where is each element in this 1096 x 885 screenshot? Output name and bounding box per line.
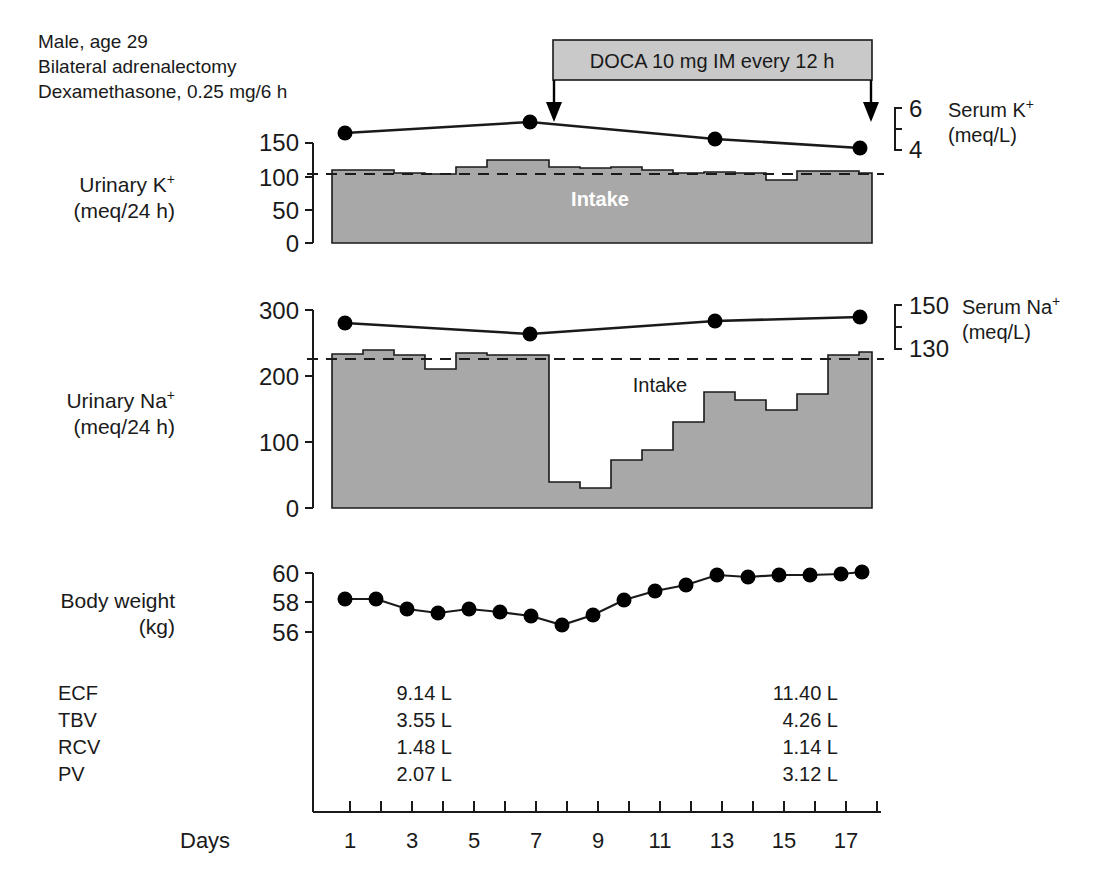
table-value-after: 1.14 L: [782, 736, 838, 758]
day-tick-9: 9: [592, 828, 604, 853]
volume-measurements-table: ECF TBV RCV PV 9.14 L 3.55 L 1.48 L 2.07…: [58, 682, 838, 785]
day-tick-1: 1: [344, 828, 356, 853]
table-value-after: 4.26 L: [782, 709, 838, 731]
serum-na-line: [345, 317, 860, 334]
serum-na-series: [338, 310, 868, 342]
days-axis: Days 1 3 5 7 9 11 13 15 17: [180, 801, 881, 853]
serum-k-tick-6: 6: [909, 95, 922, 122]
body-weight-point: [803, 568, 818, 583]
body-weight-point: [617, 593, 632, 608]
body-weight-series: [338, 565, 870, 633]
body-weight-point: [462, 602, 477, 617]
serum-k-units: (meq/L): [948, 124, 1017, 146]
serum-k-scale: 6 4 Serum K+ (meq/L): [895, 95, 1034, 163]
body-weight-point: [741, 570, 756, 585]
body-weight-label: Body weight: [61, 589, 176, 612]
urinary-na-units: (meq/24 h): [73, 415, 175, 438]
urinary-na-bars: [332, 350, 872, 508]
body-weight-point: [555, 618, 570, 633]
serum-na-point: [338, 316, 353, 331]
urinary-na-label: Urinary Na+: [66, 387, 175, 412]
urinary-k-tick-0: 0: [286, 230, 299, 257]
serum-k-point: [523, 115, 538, 130]
header-line-3: Dexamethasone, 0.25 mg/6 h: [38, 81, 287, 102]
serum-na-point: [708, 314, 723, 329]
body-weight-point: [524, 609, 539, 624]
body-weight-point: [710, 568, 725, 583]
day-tick-11: 11: [649, 828, 672, 853]
table-row-label: TBV: [58, 709, 98, 731]
day-tick-3: 3: [406, 828, 418, 853]
figure-doca-escape: Male, age 29 Bilateral adrenalectomy Dex…: [0, 0, 1096, 885]
table-value-after: 3.12 L: [782, 763, 838, 785]
serum-k-point: [708, 132, 723, 147]
body-weight-point: [648, 584, 663, 599]
urinary-na-tick-300: 300: [259, 297, 299, 324]
body-weight-tick-58: 58: [272, 589, 299, 616]
urinary-k-yticks: [305, 143, 313, 243]
doca-treatment-bar: DOCA 10 mg IM every 12 h: [546, 40, 879, 122]
days-axis-ticks: [350, 801, 877, 812]
table-value-before: 2.07 L: [396, 763, 452, 785]
patient-header: Male, age 29 Bilateral adrenalectomy Dex…: [38, 31, 287, 102]
day-tick-17: 17: [834, 828, 858, 853]
serum-k-series: [338, 115, 868, 156]
body-weight-tick-56: 56: [272, 619, 299, 646]
urinary-k-intake-label: Intake: [571, 188, 629, 210]
body-weight-point: [679, 578, 694, 593]
serum-na-tick-150: 150: [909, 292, 949, 319]
body-weight-units: (kg): [139, 615, 175, 638]
table-value-before: 1.48 L: [396, 736, 452, 758]
body-weight-point: [834, 567, 849, 582]
serum-k-point: [853, 141, 868, 156]
panel-body-weight: Body weight (kg) 60 58 56: [61, 560, 870, 812]
serum-k-label: Serum K+: [948, 96, 1034, 121]
urinary-k-tick-150: 150: [259, 129, 299, 156]
table-value-before: 9.14 L: [396, 682, 452, 704]
urinary-k-label: Urinary K+: [79, 171, 175, 196]
days-axis-label: Days: [180, 828, 230, 853]
urinary-na-tick-0: 0: [286, 495, 299, 522]
urinary-k-tick-100: 100: [259, 164, 299, 191]
table-row-label: PV: [58, 763, 85, 785]
serum-na-scale: 150 130 Serum Na+ (meq/L): [895, 292, 1060, 362]
header-line-1: Male, age 29: [38, 31, 148, 52]
serum-k-bracket: [895, 108, 902, 150]
serum-k-line: [345, 122, 860, 148]
body-weight-point: [369, 592, 384, 607]
urinary-k-units: (meq/24 h): [73, 199, 175, 222]
body-weight-point: [855, 565, 870, 580]
day-tick-15: 15: [772, 828, 796, 853]
serum-na-bracket: [895, 305, 902, 349]
table-row-label: ECF: [58, 682, 98, 704]
body-weight-point: [338, 592, 353, 607]
serum-na-point: [853, 310, 868, 325]
urinary-k-tick-50: 50: [272, 197, 299, 224]
body-weight-point: [431, 606, 446, 621]
urinary-na-yticks: [305, 310, 313, 508]
serum-na-tick-130: 130: [909, 335, 949, 362]
body-weight-point: [772, 568, 787, 583]
header-line-2: Bilateral adrenalectomy: [38, 56, 237, 77]
urinary-na-intake-label: Intake: [633, 374, 687, 396]
table-row-label: RCV: [58, 736, 101, 758]
body-weight-point: [400, 602, 415, 617]
urinary-na-tick-200: 200: [259, 363, 299, 390]
serum-k-tick-4: 4: [909, 136, 922, 163]
day-tick-13: 13: [710, 828, 734, 853]
doca-start-arrow-head: [546, 102, 562, 122]
body-weight-tick-60: 60: [272, 560, 299, 587]
day-tick-5: 5: [468, 828, 480, 853]
serum-na-point: [523, 327, 538, 342]
urinary-na-tick-100: 100: [259, 429, 299, 456]
figure-svg: Male, age 29 Bilateral adrenalectomy Dex…: [0, 0, 1096, 885]
body-weight-yticks: [305, 573, 313, 632]
panel-urinary-sodium: Urinary Na+ (meq/24 h) 300 200 100 0 Int…: [66, 292, 1060, 522]
doca-end-arrow-head: [863, 102, 879, 122]
serum-na-units: (meq/L): [962, 321, 1031, 343]
body-weight-point: [493, 605, 508, 620]
serum-na-label: Serum Na+: [962, 293, 1060, 318]
table-value-after: 11.40 L: [773, 682, 838, 704]
table-value-before: 3.55 L: [396, 709, 452, 731]
day-tick-7: 7: [530, 828, 542, 853]
